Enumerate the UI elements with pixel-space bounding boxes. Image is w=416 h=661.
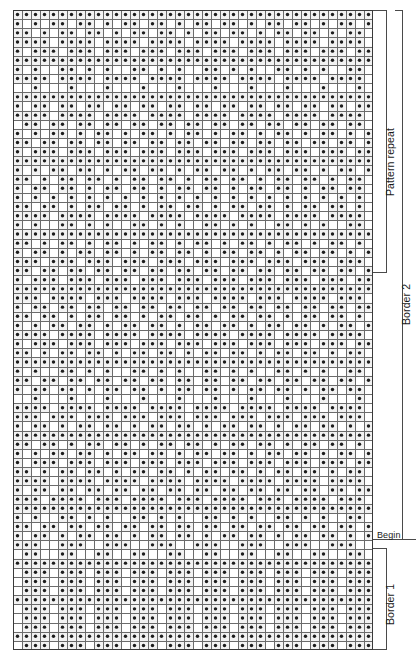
begin-label: Begin [377, 530, 401, 540]
border1-bracket-bottom-tick [373, 649, 387, 650]
knitting-chart: Pattern repeat Border 2 Begin Border 1 [0, 0, 416, 661]
border2-label: Border 2 [400, 284, 412, 325]
stitch-grid-canvas[interactable] [13, 10, 373, 650]
pattern-repeat-label: Pattern repeat [384, 128, 396, 196]
pattern-repeat-bracket-bottom-tick [373, 272, 387, 273]
border1-bracket-top-tick [373, 548, 387, 549]
pattern-repeat-bracket-top-tick [373, 10, 387, 11]
border2-bracket-stem [402, 10, 403, 540]
stitch-grid[interactable] [13, 10, 373, 650]
border1-label: Border 1 [384, 584, 396, 625]
